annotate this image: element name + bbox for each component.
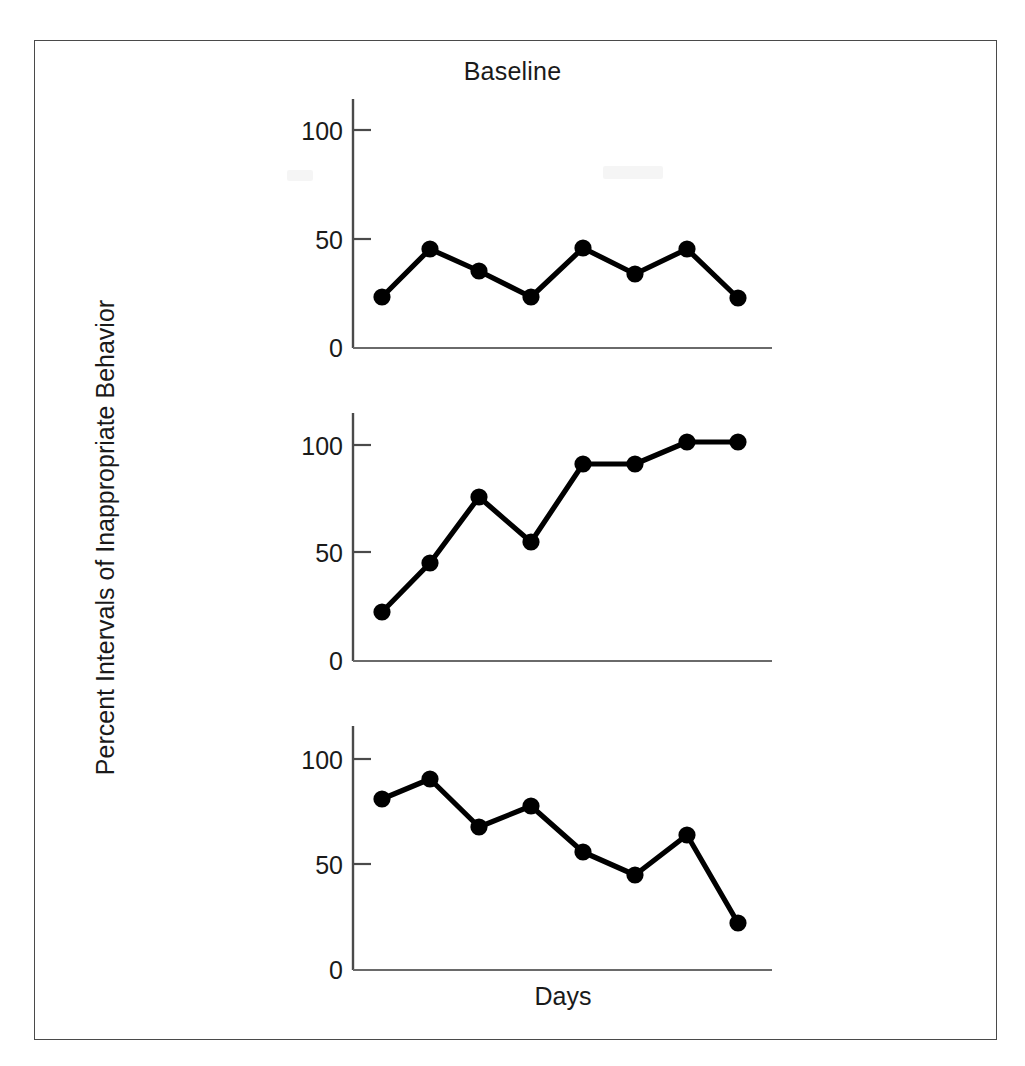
scan-artifact [287,170,313,181]
y-axis-label: Percent Intervals of Inappropriate Behav… [91,218,120,858]
figure-container: Baseline Percent Intervals of Inappropri… [0,0,1025,1066]
scan-artifact [603,166,663,179]
x-axis-label: Days [353,982,773,1011]
chart-title: Baseline [0,57,1025,86]
figure-frame [34,40,997,1040]
